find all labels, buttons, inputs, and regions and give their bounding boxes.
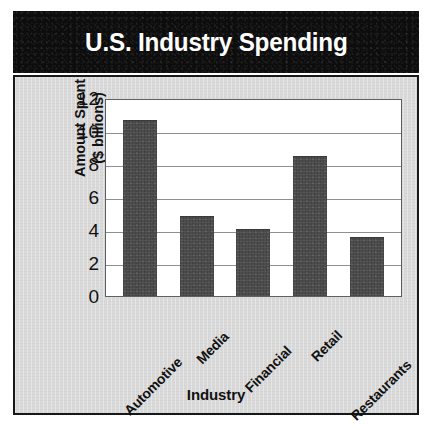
bar-slot xyxy=(282,100,339,296)
bar xyxy=(123,120,157,296)
bar-slot xyxy=(338,100,395,296)
bar xyxy=(350,237,384,296)
bar xyxy=(293,156,327,296)
bar xyxy=(236,229,270,296)
y-axis-tick-label: 2 xyxy=(88,253,99,275)
bar-slot xyxy=(225,100,282,296)
y-axis-tick-label: 6 xyxy=(88,187,99,209)
y-axis-tick-label: 0 xyxy=(88,286,99,308)
x-axis-tick-label: Media xyxy=(192,328,231,367)
bar-slot xyxy=(112,100,169,296)
bar-slot xyxy=(169,100,226,296)
page-title: U.S. Industry Spending xyxy=(85,28,348,57)
bar-series xyxy=(106,100,401,296)
y-axis-tick-labels: 121086420 xyxy=(59,99,99,297)
y-axis-tick-label: 12 xyxy=(78,88,99,110)
x-axis-title: Industry xyxy=(15,386,417,403)
y-axis-tick-label: 8 xyxy=(88,154,99,176)
y-axis-tick-label: 4 xyxy=(88,220,99,242)
bar xyxy=(180,216,214,296)
chart-title-banner: U.S. Industry Spending xyxy=(13,11,419,73)
plot-area xyxy=(105,99,402,297)
y-axis-tick-label: 10 xyxy=(78,121,99,143)
x-axis-tick-label: Retail xyxy=(307,327,344,364)
chart-figure: U.S. Industry Spending Amount Spent ($ b… xyxy=(0,0,432,430)
chart-body: Amount Spent ($ billions) 121086420 Auto… xyxy=(13,75,419,415)
x-axis-tick-labels: AutomotiveMediaFinancialRetailRestaurant… xyxy=(105,297,402,387)
